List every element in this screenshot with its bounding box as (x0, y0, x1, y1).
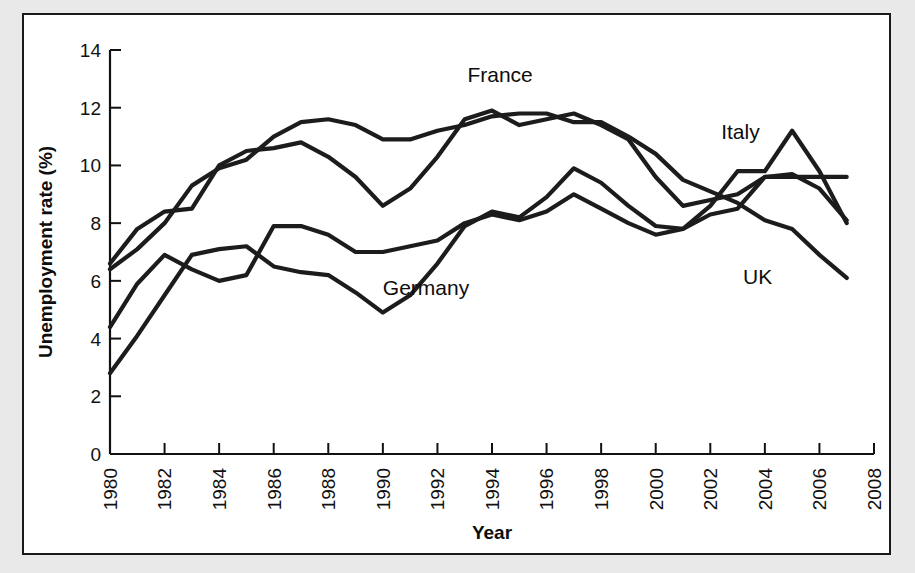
x-axis-title: Year (472, 522, 513, 543)
x-tick-label: 2004 (755, 468, 776, 511)
x-tick-label: 1982 (154, 468, 175, 510)
x-tick-label: 2002 (700, 468, 721, 510)
y-tick-label: 10 (80, 155, 101, 176)
x-tick-label: 1984 (209, 468, 230, 511)
series-label-france: France (467, 63, 532, 86)
y-tick-label: 2 (90, 386, 101, 407)
y-tick-label: 0 (90, 444, 101, 465)
x-tick-label: 1998 (591, 468, 612, 510)
x-tick-label: 1994 (482, 468, 503, 511)
y-axis-title: Unemployment rate (%) (35, 146, 56, 358)
x-tick-label: 1988 (318, 468, 339, 510)
x-tick-label: 2000 (646, 468, 667, 510)
x-tick-label: 1996 (536, 468, 557, 510)
series-label-uk: UK (743, 265, 772, 288)
x-tick-label: 1986 (264, 468, 285, 510)
series-inline-labels: FranceItalyGermanyUK (383, 63, 772, 300)
figure-frame: FranceItalyGermanyUK 0246810121419801982… (22, 13, 891, 555)
x-tick-label: 2008 (864, 468, 885, 510)
y-tick-label: 6 (90, 271, 101, 292)
x-tick-label: 1992 (427, 468, 448, 510)
series-label-germany: Germany (383, 276, 470, 299)
y-tick-label: 8 (90, 213, 101, 234)
series-label-italy: Italy (721, 120, 760, 143)
series-line-uk (110, 177, 847, 327)
series-lines (110, 111, 847, 374)
x-axis-ticks (110, 443, 874, 454)
y-tick-label: 12 (80, 98, 101, 119)
x-tick-label: 2006 (809, 468, 830, 510)
line-chart: FranceItalyGermanyUK 0246810121419801982… (24, 15, 889, 553)
x-tick-label: 1980 (100, 468, 121, 510)
y-tick-label: 14 (80, 40, 102, 61)
x-tick-label: 1990 (373, 468, 394, 510)
y-tick-label: 4 (90, 329, 101, 350)
